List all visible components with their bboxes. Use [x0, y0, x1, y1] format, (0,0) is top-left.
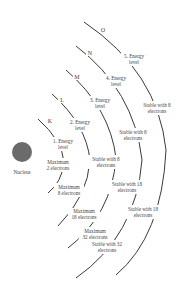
nucleus	[12, 142, 32, 162]
max-m-sub: 18 electrons	[71, 214, 96, 220]
stable-o-8-sub: electrons	[148, 108, 167, 114]
stable-m-8-sub: electrons	[97, 162, 116, 168]
energy-level-5-sub: level	[129, 59, 140, 65]
energy-level-3-sub: level	[95, 103, 106, 109]
stable-m-18-sub: electrons	[118, 187, 137, 193]
shell-letter-l: L	[60, 97, 64, 103]
shell-letter-m: M	[74, 74, 80, 80]
energy-level-2-sub: level	[75, 125, 86, 131]
stable-o-32-sub: electrons	[98, 247, 117, 253]
shell-letter-n: N	[88, 50, 93, 56]
shell-arc-k	[38, 119, 64, 193]
stable-n-8-sub: electrons	[124, 135, 143, 141]
atom-shell-diagram: Nucleus O N M L K 5. Energy level 4. Ene…	[0, 0, 184, 289]
stable-n-18-sub: electrons	[134, 212, 153, 218]
max-n-sub: 32 electrons	[82, 234, 107, 240]
energy-level-4-sub: level	[111, 81, 122, 87]
max-k-sub: 2 electrons	[47, 165, 70, 171]
nucleus-label: Nucleus	[14, 169, 31, 175]
shell-letter-k: K	[48, 118, 53, 124]
shell-letter-o: O	[101, 27, 106, 33]
max-l-sub: 8 electrons	[58, 190, 81, 196]
energy-level-1-sub: level	[58, 144, 69, 150]
